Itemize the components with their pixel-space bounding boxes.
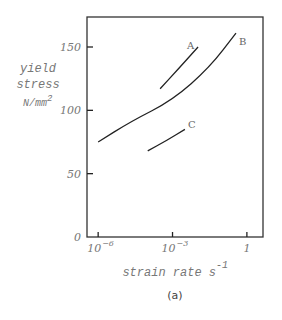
y-axis-title-line-2: stress	[16, 78, 59, 92]
x-axis-title: strain rate s	[122, 266, 216, 280]
y-tick-label: 0	[74, 231, 81, 244]
y-axis-title-line-3: N/mm	[23, 98, 47, 109]
x-axis-title-superscript: -1	[216, 260, 228, 271]
series-A-label: A	[186, 40, 195, 51]
x-tick-label-exponent: −3	[177, 239, 189, 248]
series-C-label: C	[188, 119, 196, 130]
x-tick-label: 1	[243, 242, 250, 255]
x-tick-label: 10	[87, 242, 101, 255]
figure-caption: (a)	[167, 289, 182, 302]
x-tick-label: 10	[162, 242, 176, 255]
y-tick-label: 100	[60, 104, 81, 117]
y-axis-title-line-1: yield	[19, 62, 57, 76]
series-B-line	[98, 33, 236, 142]
y-axis-title: yield stress N/mm 2	[16, 62, 59, 109]
chart: 10−610−31050100150 ABC yield stress N/mm…	[0, 0, 282, 320]
x-tick-label-exponent: −6	[102, 239, 114, 248]
series-C-line	[148, 129, 185, 151]
plot-frame	[87, 17, 263, 237]
y-tick-label: 150	[60, 41, 81, 54]
y-tick-label: 50	[67, 168, 81, 181]
series-B-label: B	[239, 36, 246, 47]
y-axis-title-superscript: 2	[47, 94, 53, 104]
